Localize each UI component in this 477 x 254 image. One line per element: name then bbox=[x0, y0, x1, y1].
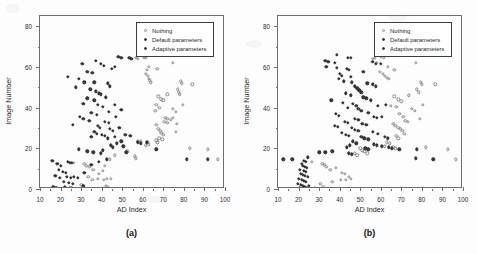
data-point bbox=[340, 74, 343, 77]
data-point bbox=[109, 177, 112, 180]
data-point bbox=[374, 85, 377, 88]
data-point bbox=[105, 158, 108, 161]
x-tick-mark bbox=[184, 187, 185, 191]
data-point bbox=[394, 105, 397, 108]
data-point bbox=[347, 68, 350, 71]
data-point bbox=[107, 121, 110, 124]
data-point bbox=[64, 171, 67, 174]
data-point bbox=[365, 123, 368, 126]
data-point bbox=[335, 66, 338, 69]
data-point bbox=[190, 82, 193, 85]
x-tick-minor bbox=[112, 189, 113, 192]
x-tick-minor bbox=[391, 189, 392, 192]
data-point bbox=[306, 156, 309, 159]
legend-label-default: Default parameters bbox=[152, 37, 202, 43]
data-point bbox=[349, 75, 352, 78]
data-point bbox=[403, 132, 406, 135]
data-point bbox=[51, 159, 54, 162]
data-point bbox=[97, 172, 100, 175]
x-tick-minor bbox=[288, 189, 289, 192]
y-axis-title-a: Image Number bbox=[4, 77, 13, 125]
data-point bbox=[93, 80, 96, 83]
x-tick-minor bbox=[412, 189, 413, 192]
data-point bbox=[162, 133, 165, 136]
x-tick-mark bbox=[163, 187, 164, 191]
data-point bbox=[454, 158, 457, 161]
data-point bbox=[108, 158, 111, 161]
legend-item-adaptive-b: Adaptive parameters bbox=[379, 44, 444, 53]
data-point bbox=[108, 85, 111, 88]
data-point bbox=[92, 151, 95, 154]
data-point bbox=[62, 180, 65, 183]
data-point bbox=[67, 181, 70, 184]
data-point bbox=[417, 91, 420, 94]
data-point bbox=[95, 113, 98, 116]
data-point bbox=[367, 111, 370, 114]
x-axis-title-b: AD Index bbox=[277, 205, 462, 214]
data-point bbox=[360, 91, 363, 94]
data-point bbox=[145, 68, 148, 71]
data-point bbox=[144, 144, 147, 147]
y-tick-label: 20 bbox=[263, 145, 270, 152]
legend-item-default-a: Default parameters bbox=[141, 35, 206, 44]
data-point bbox=[166, 121, 169, 124]
data-point bbox=[180, 81, 183, 84]
x-tick-label: 50 bbox=[357, 196, 364, 203]
data-point bbox=[324, 151, 327, 154]
data-point bbox=[66, 75, 69, 78]
data-point bbox=[76, 176, 79, 179]
data-point bbox=[380, 115, 383, 118]
x-tick-minor bbox=[309, 189, 310, 192]
x-tick-label: 60 bbox=[377, 196, 384, 203]
data-point bbox=[103, 120, 106, 123]
x-tick-minor bbox=[91, 189, 92, 192]
filled-circle-marker-icon bbox=[379, 38, 388, 41]
x-tick-minor bbox=[350, 189, 351, 192]
data-point bbox=[101, 169, 104, 172]
data-point bbox=[125, 151, 128, 154]
y-tick-label: 0 bbox=[28, 186, 32, 193]
data-point bbox=[92, 168, 95, 171]
y-tick-mark bbox=[274, 148, 278, 149]
data-point bbox=[354, 142, 357, 145]
data-point bbox=[375, 144, 378, 147]
x-tick-minor bbox=[432, 189, 433, 192]
y-tick-minor bbox=[276, 128, 279, 129]
data-point bbox=[136, 57, 139, 60]
data-point bbox=[400, 100, 403, 103]
data-point bbox=[129, 134, 132, 137]
y-tick-minor bbox=[38, 169, 41, 170]
data-point bbox=[362, 70, 365, 73]
panel-caption-a: (a) bbox=[39, 228, 224, 238]
data-point bbox=[413, 109, 416, 112]
legend-label-default: Default parameters bbox=[390, 37, 440, 43]
data-point bbox=[171, 116, 174, 119]
data-point bbox=[334, 166, 337, 169]
data-point bbox=[398, 112, 401, 115]
x-tick-mark bbox=[463, 187, 464, 191]
data-point bbox=[380, 145, 383, 148]
legend-item-default-b: Default parameters bbox=[379, 35, 444, 44]
data-point bbox=[117, 126, 120, 129]
x-tick-mark bbox=[340, 187, 341, 191]
data-point bbox=[344, 178, 347, 181]
x-tick-mark bbox=[102, 187, 103, 191]
x-tick-label: 40 bbox=[98, 196, 105, 203]
data-point bbox=[90, 135, 93, 138]
data-point bbox=[407, 94, 410, 97]
x-tick-mark bbox=[122, 187, 123, 191]
x-tick-label: 100 bbox=[220, 196, 231, 203]
x-tick-label: 90 bbox=[439, 196, 446, 203]
data-point bbox=[93, 99, 96, 102]
data-point bbox=[386, 136, 389, 139]
data-point bbox=[414, 61, 417, 64]
y-tick-minor bbox=[38, 87, 41, 88]
data-point bbox=[304, 160, 307, 163]
data-point bbox=[72, 175, 75, 178]
data-point bbox=[304, 180, 307, 183]
data-point bbox=[431, 158, 434, 161]
data-point bbox=[154, 123, 157, 126]
x-tick-mark bbox=[204, 187, 205, 191]
data-point bbox=[360, 109, 363, 112]
data-point bbox=[82, 171, 85, 174]
